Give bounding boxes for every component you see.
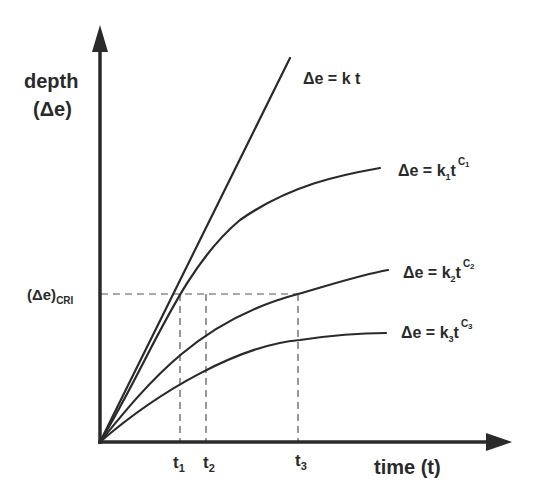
- curves: [100, 58, 388, 442]
- k2-equation-label: Δe = k2tC2: [403, 258, 475, 284]
- t2-label: t2: [203, 453, 215, 474]
- guide-lines: [101, 294, 298, 442]
- curve-k1: [100, 168, 380, 442]
- k1-equation-label: Δe = k1tC1: [398, 156, 470, 182]
- y-axis-label-line2: (Δe): [33, 98, 72, 120]
- k3-equation-label: Δe = k3tC3: [401, 318, 473, 344]
- curve-k3: [100, 333, 386, 442]
- y-axis-label-line1: depth: [24, 70, 78, 92]
- axes: [92, 25, 512, 451]
- cri-label: (Δe)CRI: [27, 286, 74, 306]
- t3-label: t3: [295, 451, 307, 472]
- y-axis-arrow-icon: [92, 25, 108, 52]
- depth-time-diagram: depth (Δe) time (t) (Δe)CRI t1 t2 t3 Δe …: [0, 0, 535, 498]
- x-axis-label: time (t): [374, 456, 441, 478]
- x-axis-arrow-icon: [486, 433, 512, 451]
- linear-equation-label: Δe = k t: [303, 70, 361, 87]
- t1-label: t1: [173, 453, 185, 474]
- linear-curve: [100, 58, 290, 442]
